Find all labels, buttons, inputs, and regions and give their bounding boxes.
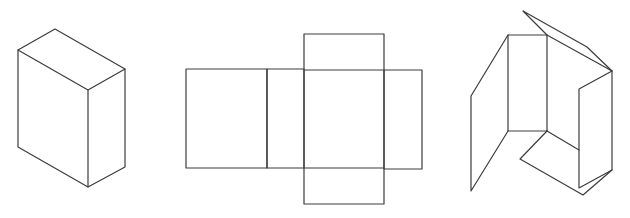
box-net-panel	[186, 69, 267, 168]
box-net-panel	[384, 70, 422, 169]
box-net-panel	[304, 34, 384, 204]
diagram-canvas: Three stages of a rectangular box: assem…	[0, 0, 630, 218]
folding-box-edge	[547, 35, 612, 71]
folding-box-edge	[523, 11, 612, 71]
folding-box-edge	[520, 131, 612, 195]
folding-box-edge	[508, 35, 547, 131]
assembled-box-edge	[18, 29, 125, 90]
box-net-figure	[186, 34, 422, 204]
diagram-svg	[0, 0, 630, 218]
box-net-panel	[267, 69, 304, 168]
assembled-box-edge	[18, 50, 125, 187]
folding-box-edge	[579, 71, 612, 188]
folding-box-edge	[471, 35, 508, 191]
folding-box-edge	[547, 131, 579, 150]
folding-box-figure	[471, 11, 612, 195]
assembled-box-figure	[18, 29, 125, 187]
